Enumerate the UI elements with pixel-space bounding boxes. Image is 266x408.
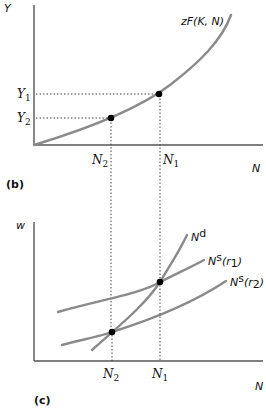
y1-tick-label: Y1 <box>17 87 31 103</box>
n1-tick-label: N1 <box>162 153 179 169</box>
labor-supply-r2-curve <box>62 281 226 345</box>
y-axis-label: w <box>16 219 25 232</box>
x-axis-label: N <box>255 380 263 393</box>
production-function-curve <box>34 15 231 145</box>
equilibrium-point-1 <box>157 279 164 286</box>
ns-r2-label: Ns(r2) <box>230 272 264 291</box>
n2-tick-label: N2 <box>91 153 108 169</box>
panel-label-b: (b) <box>6 178 24 191</box>
panel-c: w N (c) Nd Ns(r1) Ns(r2) N2 N1 <box>16 219 264 407</box>
y2-tick-label: Y2 <box>17 111 31 127</box>
point-n2-y2 <box>108 115 115 122</box>
ns-r1-label: Ns(r1) <box>208 251 242 270</box>
equilibrium-point-2 <box>109 329 116 336</box>
curve-label: zF(K, N) <box>180 15 224 28</box>
n2-tick-label: N2 <box>102 367 119 383</box>
x-axis-label: N <box>252 162 260 175</box>
y-axis-label: Y <box>4 2 12 15</box>
n1-tick-label: N1 <box>151 367 168 383</box>
panel-label-c: (c) <box>34 394 51 407</box>
diagram-canvas: Y N zF(K, N) (b) Y1 Y2 N2 N1 w N (c) Nd … <box>0 0 266 408</box>
nd-label: Nd <box>191 227 206 244</box>
point-n1-y1 <box>156 91 163 98</box>
